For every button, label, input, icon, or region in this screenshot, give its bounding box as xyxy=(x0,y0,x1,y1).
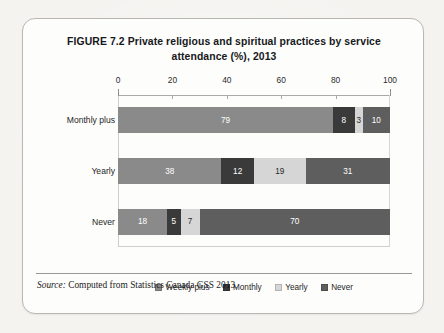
legend-swatch-icon xyxy=(321,284,328,291)
source-note: Source: Computed from Statistics Canada … xyxy=(37,280,237,290)
stacked-bar-chart: 020406080100 79831038121931185770 Monthl… xyxy=(23,71,425,259)
legend-label: Never xyxy=(331,283,353,292)
bar-segment[interactable]: 70 xyxy=(200,209,390,235)
source-label: Source: xyxy=(37,280,66,290)
bar-segment[interactable]: 10 xyxy=(363,107,390,133)
x-tick-label-80: 80 xyxy=(331,75,340,85)
x-tick-label-0: 0 xyxy=(116,75,121,85)
bar-segment[interactable]: 18 xyxy=(118,209,167,235)
legend-item[interactable]: Never xyxy=(321,283,353,292)
category-label: Monthly plus xyxy=(0,115,115,125)
category-label: Yearly xyxy=(0,166,115,176)
bar-segment[interactable]: 19 xyxy=(254,158,306,184)
bar-segment[interactable]: 7 xyxy=(181,209,200,235)
category-label: Never xyxy=(0,217,115,227)
bar-segment[interactable]: 5 xyxy=(167,209,181,235)
x-tick-label-100: 100 xyxy=(383,75,397,85)
x-tick-label-20: 20 xyxy=(168,75,177,85)
bar-segment[interactable]: 38 xyxy=(118,158,221,184)
page-background: FIGURE 7.2 Private religious and spiritu… xyxy=(0,0,444,333)
bar-segment[interactable]: 8 xyxy=(333,107,355,133)
source-text: Computed from Statistics Canada GSS 2013… xyxy=(68,280,237,290)
bar-row: 38121931 xyxy=(118,158,390,184)
plot-area: 79831038121931185770 xyxy=(118,95,390,247)
x-tick-100 xyxy=(390,89,391,96)
legend-label: Yearly xyxy=(285,283,307,292)
bar-segment[interactable]: 31 xyxy=(306,158,390,184)
bar-row: 798310 xyxy=(118,107,390,133)
bar-segment[interactable]: 79 xyxy=(118,107,333,133)
bar-segment[interactable]: 12 xyxy=(221,158,254,184)
bar-row: 185770 xyxy=(118,209,390,235)
bar-segment[interactable]: 3 xyxy=(355,107,363,133)
x-tick-label-60: 60 xyxy=(277,75,286,85)
source-divider xyxy=(36,273,412,274)
figure-title: FIGURE 7.2 Private religious and spiritu… xyxy=(49,34,399,64)
figure-card: FIGURE 7.2 Private religious and spiritu… xyxy=(22,18,424,314)
legend-item[interactable]: Yearly xyxy=(275,283,308,292)
legend-swatch-icon xyxy=(275,284,282,291)
x-tick-label-40: 40 xyxy=(222,75,231,85)
